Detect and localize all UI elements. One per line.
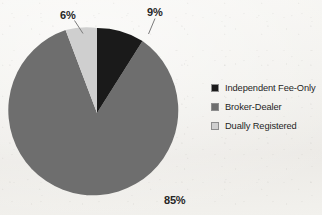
legend-item-label: Independent Fee-Only <box>225 83 316 93</box>
legend-swatch-icon <box>211 84 219 92</box>
chart-page: 6% 9% 85% Independent Fee-Only Broker-De… <box>0 0 322 215</box>
legend-swatch-icon <box>211 103 219 111</box>
legend-item-label: Dually Registered <box>225 121 297 131</box>
pie-data-label-dually-registered: 6% <box>60 9 76 21</box>
legend-item-broker-dealer[interactable]: Broker-Dealer <box>211 101 316 112</box>
legend-item-dually-registered[interactable]: Dually Registered <box>211 120 316 131</box>
pie-data-label-independent-fee-only: 9% <box>147 6 163 18</box>
legend-swatch-icon <box>211 122 219 130</box>
legend-item-independent-fee-only[interactable]: Independent Fee-Only <box>211 82 316 93</box>
leader-line-independent-fee-only <box>149 19 156 35</box>
chart-legend: Independent Fee-Only Broker-Dealer Duall… <box>211 82 316 131</box>
legend-item-label: Broker-Dealer <box>225 102 282 112</box>
pie-data-label-broker-dealer: 85% <box>164 194 185 206</box>
